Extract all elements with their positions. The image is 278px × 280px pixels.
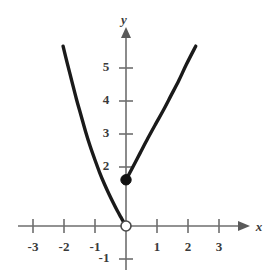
closed-endpoint-dot [121,175,131,185]
y-tick-label-minus1: -1 [99,250,110,265]
x-tick-label-minus2: -2 [59,239,70,254]
x-axis-arrow-icon [238,221,250,231]
right-branch-curve [126,46,196,180]
open-endpoint-circle [121,221,131,231]
y-axis-arrow-icon [121,27,131,38]
y-tick-label-3: 3 [103,125,110,140]
curve-group [63,46,196,226]
y-tick-label-2: 2 [103,158,110,173]
y-tick-label-4: 4 [103,92,110,107]
x-tick-label-1: 1 [154,239,161,254]
y-axis-label: y [119,12,127,27]
graph-figure: -3 -2 -1 1 2 3 x 5 4 3 2 -1 y [0,0,278,280]
x-tick-label-minus3: -3 [28,239,39,254]
x-tick-label-2: 2 [185,239,192,254]
x-axis-label: x [255,219,263,234]
left-branch-curve [63,46,126,226]
x-axis-group: -3 -2 -1 1 2 3 x [18,219,263,254]
cartesian-plot: -3 -2 -1 1 2 3 x 5 4 3 2 -1 y [0,0,278,280]
x-tick-label-3: 3 [216,239,223,254]
y-tick-label-5: 5 [103,59,110,74]
